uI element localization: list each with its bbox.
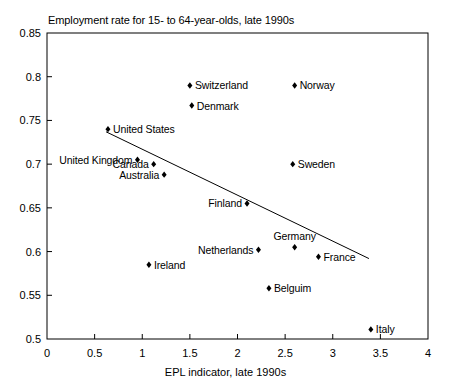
y-axis-tick-label: 0.8 (0, 71, 41, 83)
x-axis-tick-label: 1.5 (182, 347, 197, 359)
data-point-marker (187, 82, 192, 88)
trend-line (106, 132, 369, 259)
data-point-label: Denmark (197, 100, 239, 112)
x-axis-tick-label: 4 (425, 347, 431, 359)
x-axis-tick-label: 2 (234, 347, 240, 359)
data-point-marker (162, 171, 167, 177)
data-point-label: Netherlands (198, 244, 254, 256)
data-point-marker (151, 161, 156, 167)
y-axis-tick-label: 0.75 (0, 114, 41, 126)
data-point-label: Norway (300, 79, 335, 91)
x-axis-tick-label: 0 (44, 347, 50, 359)
x-axis-tick-label: 3.5 (373, 347, 388, 359)
chart-figure: Employment rate for 15- to 64-year-olds,… (0, 0, 451, 388)
data-point-marker (292, 82, 297, 88)
y-axis-tick-label: 0.6 (0, 246, 41, 258)
data-point-label: United States (113, 123, 175, 135)
x-axis-tick-label: 1 (139, 347, 145, 359)
data-point-label: France (323, 251, 355, 263)
x-axis-tick-label: 2.5 (277, 347, 292, 359)
data-point-marker (316, 254, 321, 260)
data-point-label: Germany (273, 230, 315, 242)
data-point-marker (290, 161, 295, 167)
data-point-marker (189, 102, 194, 108)
x-axis-tick-label: 3 (330, 347, 336, 359)
y-axis-tick-label: 0.65 (0, 202, 41, 214)
data-point-marker (266, 285, 271, 291)
data-point-label: Ireland (154, 259, 185, 271)
x-axis-tick-label: 0.5 (87, 347, 102, 359)
y-axis-tick-label: 0.5 (0, 333, 41, 345)
data-point-marker (105, 126, 110, 132)
data-point-label: Australia (119, 169, 159, 181)
data-point-marker (256, 247, 261, 253)
data-point-marker (368, 326, 373, 332)
data-point-label: Italy (376, 323, 395, 335)
y-axis-tick-label: 0.85 (0, 27, 41, 39)
data-point-marker (292, 244, 297, 250)
data-point-label: Finland (208, 197, 242, 209)
data-point-label: Sweden (298, 158, 335, 170)
data-point-label: Belguim (274, 282, 311, 294)
x-axis-title: EPL indicator, late 1990s (0, 366, 451, 378)
y-axis-tick-label: 0.7 (0, 158, 41, 170)
data-point-marker (146, 261, 151, 267)
data-point-label: Switzerland (195, 79, 248, 91)
data-point-marker (245, 200, 250, 206)
y-axis-tick-label: 0.55 (0, 289, 41, 301)
